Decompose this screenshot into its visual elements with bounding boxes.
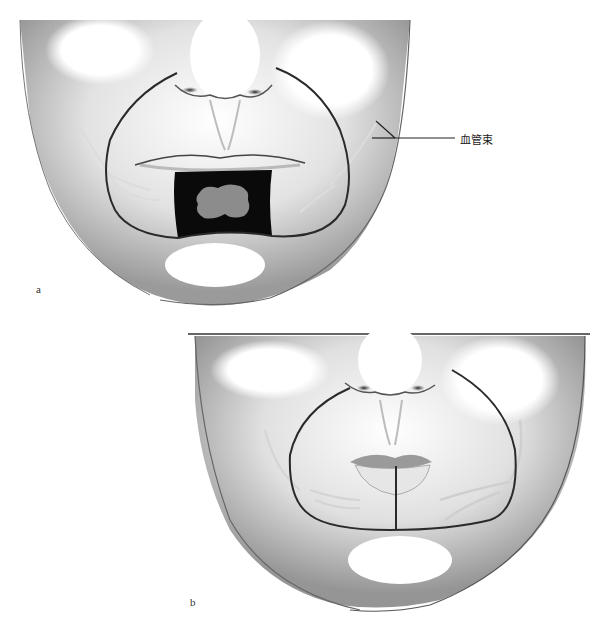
callout-vascular-bundle: 血管束 <box>460 131 493 147</box>
panel-label-b: b <box>190 596 196 608</box>
panel-b <box>188 325 590 611</box>
figure: 血管束 a b <box>0 0 610 638</box>
panel-label-a: a <box>36 283 41 295</box>
illustration <box>0 0 610 638</box>
lesion <box>196 184 249 218</box>
panel-a <box>20 10 455 306</box>
